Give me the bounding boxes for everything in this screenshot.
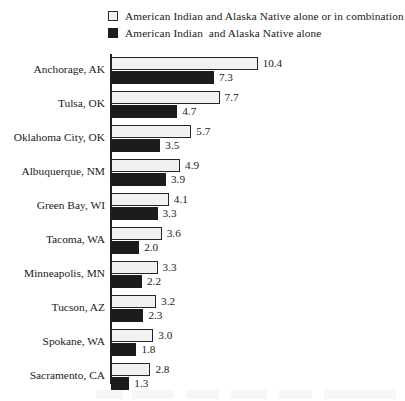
bar-alone bbox=[111, 105, 177, 118]
bar-value-label: 3.0 bbox=[158, 328, 172, 342]
bar-value-label: 2.3 bbox=[148, 308, 162, 322]
bar-value-label: 1.3 bbox=[134, 376, 148, 390]
bar-alone-or-in-combination bbox=[111, 261, 158, 274]
category-label: Anchorage, AK bbox=[0, 62, 105, 76]
category-label: Green Bay, WI bbox=[0, 198, 105, 212]
bar-value-label: 5.7 bbox=[196, 124, 210, 138]
legend-item-alone-or-in-combination: American Indian and Alaska Native alone … bbox=[108, 8, 400, 23]
bar-alone-or-in-combination bbox=[111, 193, 169, 206]
bar-value-label: 4.9 bbox=[185, 158, 199, 172]
bar-chart: American Indian and Alaska Native alone … bbox=[0, 0, 405, 401]
bar-group: Green Bay, WI4.13.3 bbox=[0, 190, 405, 224]
bar-alone-or-in-combination bbox=[111, 159, 180, 172]
bar-alone bbox=[111, 309, 143, 322]
bar-value-label: 3.6 bbox=[167, 226, 181, 240]
category-label: Tucson, AZ bbox=[0, 300, 105, 314]
bar-group: Tacoma, WA3.62.0 bbox=[0, 224, 405, 258]
bar-group: Oklahoma City, OK5.73.5 bbox=[0, 122, 405, 156]
bar-group: Spokane, WA3.01.8 bbox=[0, 326, 405, 360]
category-label: Tulsa, OK bbox=[0, 96, 105, 110]
bar-alone bbox=[111, 241, 139, 254]
bar-value-label: 3.3 bbox=[163, 260, 177, 274]
category-label: Sacramento, CA bbox=[0, 368, 105, 382]
bar-alone-or-in-combination bbox=[111, 363, 150, 376]
bar-alone-or-in-combination bbox=[111, 57, 258, 70]
category-label: Spokane, WA bbox=[0, 334, 105, 348]
bar-value-label: 2.8 bbox=[155, 362, 169, 376]
bar-group: Tucson, AZ3.22.3 bbox=[0, 292, 405, 326]
bar-alone bbox=[111, 275, 142, 288]
bar-value-label: 3.5 bbox=[165, 138, 179, 152]
bar-alone bbox=[111, 343, 136, 356]
scan-artifact bbox=[96, 390, 396, 399]
legend-item-alone: American Indian and Alaska Native alone bbox=[108, 25, 400, 40]
category-label: Tacoma, WA bbox=[0, 232, 105, 246]
bar-alone-or-in-combination bbox=[111, 329, 153, 342]
bar-value-label: 2.0 bbox=[144, 240, 158, 254]
bar-group: Minneapolis, MN3.32.2 bbox=[0, 258, 405, 292]
bar-alone bbox=[111, 207, 158, 220]
bar-group: Sacramento, CA2.81.3 bbox=[0, 360, 405, 394]
bar-value-label: 1.8 bbox=[141, 342, 155, 356]
category-label: Minneapolis, MN bbox=[0, 266, 105, 280]
bar-alone bbox=[111, 377, 129, 390]
bar-group: Albuquerque, NM4.93.9 bbox=[0, 156, 405, 190]
category-label: Albuquerque, NM bbox=[0, 164, 105, 178]
chart-legend: American Indian and Alaska Native alone … bbox=[108, 8, 400, 42]
legend-label-alone: American Indian and Alaska Native alone bbox=[125, 27, 322, 39]
bar-group: Anchorage, AK10.47.3 bbox=[0, 54, 405, 88]
bar-group: Tulsa, OK7.74.7 bbox=[0, 88, 405, 122]
bar-value-label: 2.2 bbox=[147, 274, 161, 288]
legend-swatch-dark bbox=[108, 28, 118, 38]
bar-alone bbox=[111, 139, 160, 152]
plot-area: Anchorage, AK10.47.3Tulsa, OK7.74.7Oklah… bbox=[0, 48, 405, 388]
legend-swatch-light bbox=[108, 11, 118, 21]
bar-alone bbox=[111, 71, 214, 84]
bar-value-label: 4.7 bbox=[182, 104, 196, 118]
legend-label-alone-or-in-combination: American Indian and Alaska Native alone … bbox=[125, 10, 404, 22]
bar-alone bbox=[111, 173, 166, 186]
bar-alone-or-in-combination bbox=[111, 295, 156, 308]
bar-alone-or-in-combination bbox=[111, 91, 220, 104]
bar-value-label: 4.1 bbox=[174, 192, 188, 206]
bar-alone-or-in-combination bbox=[111, 125, 191, 138]
bar-value-label: 3.9 bbox=[171, 172, 185, 186]
bar-value-label: 3.3 bbox=[163, 206, 177, 220]
bar-alone-or-in-combination bbox=[111, 227, 162, 240]
bar-value-label: 3.2 bbox=[161, 294, 175, 308]
bar-value-label: 10.4 bbox=[263, 56, 283, 70]
bar-value-label: 7.7 bbox=[225, 90, 239, 104]
category-label: Oklahoma City, OK bbox=[0, 130, 105, 144]
bar-value-label: 7.3 bbox=[219, 70, 233, 84]
